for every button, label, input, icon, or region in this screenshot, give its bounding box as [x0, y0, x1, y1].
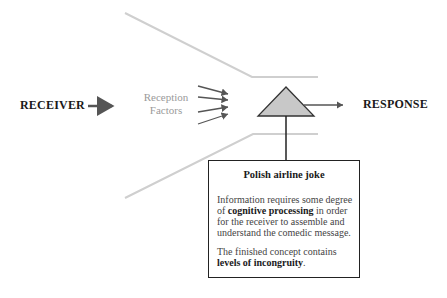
- factor-arrow-2: [198, 97, 228, 100]
- factor-arrow-4: [198, 114, 228, 124]
- factor-arrow-3: [198, 107, 228, 112]
- receiver-label: RECEIVER: [20, 98, 85, 113]
- info-box: Polish airline joke Information requires…: [208, 160, 360, 278]
- info-box-paragraph-2: The finished concept contains levels of …: [217, 246, 353, 268]
- factor-arrow-1: [198, 86, 228, 94]
- para2-text-post: .: [303, 257, 306, 268]
- reception-factors-line-2: Factors: [136, 104, 196, 117]
- para1-text-bold: cognitive processing: [228, 205, 314, 216]
- info-box-paragraph-1: Information requires some degree of cogn…: [217, 194, 353, 238]
- reception-factors-label: Reception Factors: [136, 91, 196, 117]
- info-box-title: Polish airline joke: [209, 169, 359, 180]
- para2-text-pre: The finished concept contains: [217, 246, 337, 257]
- funnel-top-line: [125, 13, 318, 77]
- para2-text-bold: levels of incongruity: [217, 257, 303, 268]
- processing-triangle: [258, 87, 314, 116]
- reception-factors-line-1: Reception: [136, 91, 196, 104]
- response-label: RESPONSE: [363, 97, 428, 112]
